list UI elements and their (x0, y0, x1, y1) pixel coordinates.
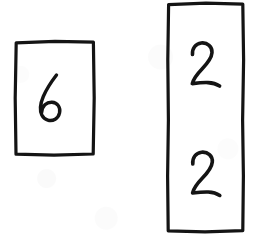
digit-2-lower-in-right-box: 2 (182, 148, 228, 202)
digit-6-in-left-box: 6 (30, 70, 70, 126)
digit-2-upper-in-right-box: 2 (182, 39, 228, 93)
drawing-canvas: 6 2 2 (0, 0, 259, 248)
